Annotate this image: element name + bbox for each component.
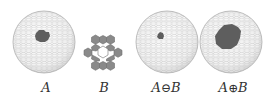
label-a: A (41, 80, 50, 96)
sphere-a (13, 11, 75, 73)
structuring-element-b (84, 35, 122, 70)
label-erosion: A⊖B (151, 80, 180, 96)
erosion-operator: ⊖ (161, 81, 171, 95)
sphere-erosion (136, 11, 198, 73)
sphere-dilation (200, 11, 262, 73)
label-b: B (99, 80, 109, 96)
label-dilation: A⊕B (218, 80, 247, 96)
dilation-operator: ⊕ (228, 81, 238, 95)
